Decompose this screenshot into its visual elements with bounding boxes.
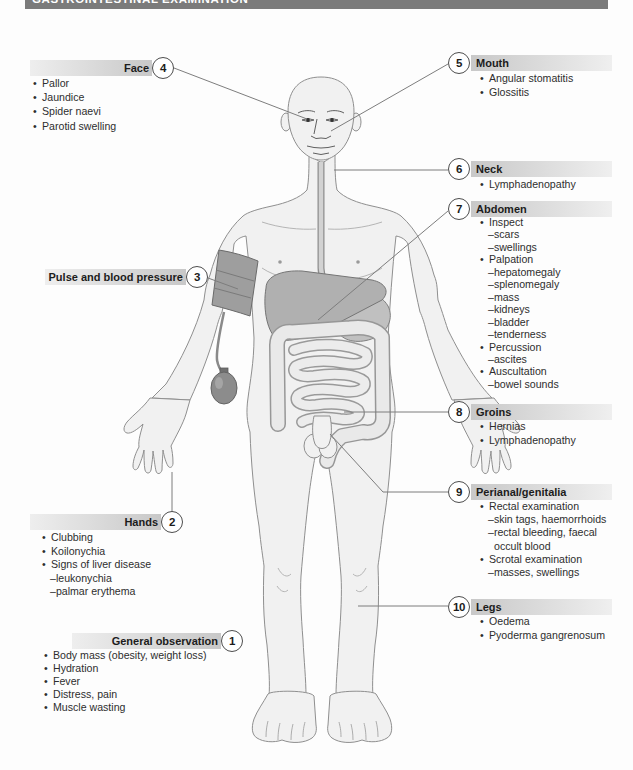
bullet-marker: • [480, 553, 489, 566]
finding-item: •Signs of liver disease [42, 558, 151, 572]
finding-text: swellings [494, 241, 537, 253]
label-perianal-number: 9 [448, 481, 470, 503]
finding-text: scars [494, 228, 519, 240]
label-bar-abdomen: Abdomen [471, 201, 612, 217]
label-bar-perianal: Perianal/genitalia [471, 484, 612, 500]
label-pulse-number: 3 [186, 266, 208, 288]
label-mouth-title: Mouth [476, 57, 509, 69]
bullet-marker: • [42, 545, 51, 559]
label-bar-hands: Hands [30, 514, 161, 530]
finding-item: •Rectal examination [480, 500, 606, 513]
finding-item: –leukonychia [42, 572, 151, 586]
page: GASTROINTESTINAL EXAMINATION [0, 0, 633, 770]
finding-text: Inspect [489, 216, 523, 228]
bullet-marker: • [480, 500, 489, 513]
label-mouth-number: 5 [448, 52, 470, 74]
label-neck-number: 6 [448, 158, 470, 180]
finding-text: Hydration [53, 662, 98, 675]
finding-item: •Pyoderma gangrenosum [480, 629, 605, 643]
right-pupil [330, 118, 334, 122]
finding-text: masses, swellings [494, 566, 579, 579]
label-bar-general: General observation [72, 633, 221, 649]
finding-item: –scars [480, 228, 560, 240]
finding-item: •Scrotal examination [480, 553, 606, 566]
finding-item: –bladder [480, 316, 560, 328]
finding-text: Pallor [42, 76, 69, 90]
finding-item: –splenomegaly [480, 278, 560, 290]
finding-text: Auscultation [489, 365, 547, 377]
finding-item: •Palpation [480, 253, 560, 265]
groins-findings-list: •Hernias•Lymphadenopathy [480, 420, 576, 447]
finding-text: Fever [53, 675, 80, 688]
right-nipple [356, 260, 360, 264]
label-face-number: 4 [152, 57, 174, 79]
bullet-marker: • [33, 119, 42, 133]
finding-text: rectal bleeding, faecal [494, 526, 597, 539]
finding-item: –swellings [480, 241, 560, 253]
finding-text: Rectal examination [489, 500, 579, 513]
finding-text: tenderness [494, 328, 546, 340]
finding-item: •Oedema [480, 615, 605, 629]
finding-item: –hepatomegaly [480, 266, 560, 278]
hands-findings-list: •Clubbing•Koilonychia•Signs of liver dis… [42, 531, 151, 599]
label-hands-number: 2 [161, 511, 183, 533]
bullet-marker: • [44, 649, 53, 662]
finding-text: Muscle wasting [53, 701, 125, 714]
left-nipple [278, 260, 282, 264]
bullet-marker: • [42, 531, 51, 545]
finding-item: –skin tags, haemorrhoids [480, 513, 606, 526]
finding-item: –kidneys [480, 303, 560, 315]
bullet-marker: • [480, 615, 489, 629]
finding-item: •Lymphadenopathy [480, 177, 576, 191]
finding-text: ascites [494, 353, 527, 365]
abdomen-findings-list: •Inspect–scars–swellings•Palpation–hepat… [480, 216, 560, 390]
finding-item: •Hydration [44, 662, 206, 675]
finding-text: Glossitis [489, 85, 529, 99]
finding-item: •Clubbing [42, 531, 151, 545]
label-bar-face: Face [30, 60, 152, 76]
finding-item: –rectal bleeding, faecal [480, 526, 606, 539]
finding-text: Body mass (obesity, weight loss) [53, 649, 206, 662]
bullet-marker: • [480, 420, 489, 434]
label-perianal-title: Perianal/genitalia [476, 486, 566, 498]
legs-findings-list: •Oedema•Pyoderma gangrenosum [480, 615, 605, 642]
label-bar-pulse: Pulse and blood pressure [45, 269, 186, 285]
finding-item: –palmar erythema [42, 585, 151, 599]
finding-item: •Muscle wasting [44, 701, 206, 714]
label-legs-title: Legs [476, 601, 502, 613]
bullet-marker: • [480, 85, 489, 99]
label-neck-title: Neck [476, 163, 502, 175]
finding-text: Pyoderma gangrenosum [489, 629, 605, 643]
bullet-marker: • [480, 71, 489, 85]
finding-text: bladder [494, 316, 529, 328]
label-face-title: Face [124, 62, 149, 74]
bullet-marker: • [33, 76, 42, 90]
finding-text: Parotid swelling [42, 119, 116, 133]
finding-text: Jaundice [42, 90, 84, 104]
face-connector [174, 68, 307, 119]
label-groins-number: 8 [448, 401, 470, 423]
label-bar-mouth: Mouth [471, 55, 612, 71]
bullet-marker: • [33, 90, 42, 104]
bullet-marker: • [480, 365, 489, 377]
finding-item: •Auscultation [480, 365, 560, 377]
finding-text: hepatomegaly [494, 266, 561, 278]
finding-item: •Body mass (obesity, weight loss) [44, 649, 206, 662]
finding-item: –mass [480, 291, 560, 303]
bullet-marker: • [480, 629, 489, 643]
finding-item: –ascites [480, 353, 560, 365]
finding-text: occult blood [494, 540, 551, 553]
bullet-marker: • [44, 662, 53, 675]
label-bar-legs: Legs [471, 599, 612, 615]
right-foot [328, 691, 392, 742]
finding-item: •Glossitis [480, 85, 573, 99]
finding-text: Distress, pain [53, 688, 117, 701]
finding-text: mass [494, 291, 519, 303]
finding-item: •Angular stomatitis [480, 71, 573, 85]
bullet-marker: • [480, 177, 489, 191]
finding-item: •Jaundice [33, 90, 116, 104]
finding-text: Percussion [489, 341, 541, 353]
finding-item: •Lymphadenopathy [480, 434, 576, 448]
finding-text: palmar erythema [56, 585, 135, 599]
label-pulse-title: Pulse and blood pressure [49, 271, 183, 283]
